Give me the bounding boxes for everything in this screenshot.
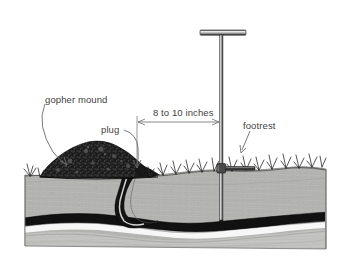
label-dimension-8-to-10-inches: 8 to 10 inches bbox=[153, 107, 214, 118]
label-gopher-mound: gopher mound bbox=[45, 94, 107, 105]
label-footrest: footrest bbox=[243, 120, 275, 131]
probe-shaft bbox=[220, 35, 223, 221]
gopher-mound-diagram bbox=[0, 0, 341, 267]
label-plug: plug bbox=[101, 124, 119, 135]
soil-cross-section bbox=[24, 167, 327, 250]
t-handle bbox=[200, 30, 246, 35]
